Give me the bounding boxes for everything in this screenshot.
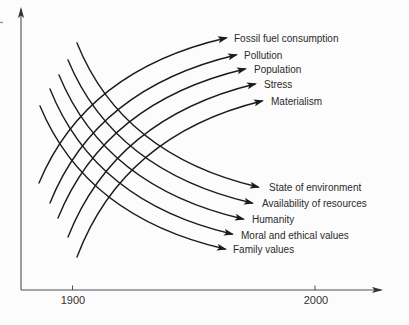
label-fossil-fuel-consumption: Fossil fuel consumption <box>234 33 339 44</box>
label-population: Population <box>254 64 301 75</box>
label-state-of-environment: State of environment <box>269 182 361 193</box>
curve-fossil-fuel-consumption <box>39 38 226 183</box>
label-pollution: Pollution <box>244 50 282 61</box>
curve-materialism <box>77 101 262 257</box>
curve-state-of-environment <box>77 43 258 187</box>
label-availability-of-resources: Availability of resources <box>262 198 367 209</box>
trends-chart: 1900 2000 Fossil fuel consumption Pollut… <box>0 0 409 325</box>
curve-population <box>58 69 245 218</box>
curve-family-values <box>40 106 225 249</box>
label-stress: Stress <box>264 79 292 90</box>
label-moral-and-ethical-values: Moral and ethical values <box>241 230 349 241</box>
label-family-values: Family values <box>233 244 294 255</box>
label-materialism: Materialism <box>271 96 322 107</box>
x-tick-label-1900: 1900 <box>61 294 85 306</box>
curve-stress <box>68 84 255 237</box>
label-humanity: Humanity <box>252 214 294 225</box>
x-tick-label-2000: 2000 <box>304 294 328 306</box>
curve-pollution <box>50 55 236 203</box>
trends-chart-canvas: 1900 2000 Fossil fuel consumption Pollut… <box>0 0 409 325</box>
